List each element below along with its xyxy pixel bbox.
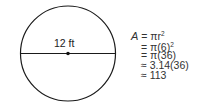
center-point bbox=[66, 52, 70, 56]
diameter-label: 12 ft bbox=[54, 37, 74, 49]
eq-op: ≈ bbox=[141, 69, 147, 81]
eq-sup: 2 bbox=[170, 41, 174, 48]
equation-line-5: ≈ 113 bbox=[141, 70, 166, 80]
eq-lhs: A bbox=[131, 30, 138, 42]
eq-sup: 2 bbox=[161, 30, 165, 37]
eq-rhs: 113 bbox=[150, 69, 167, 81]
